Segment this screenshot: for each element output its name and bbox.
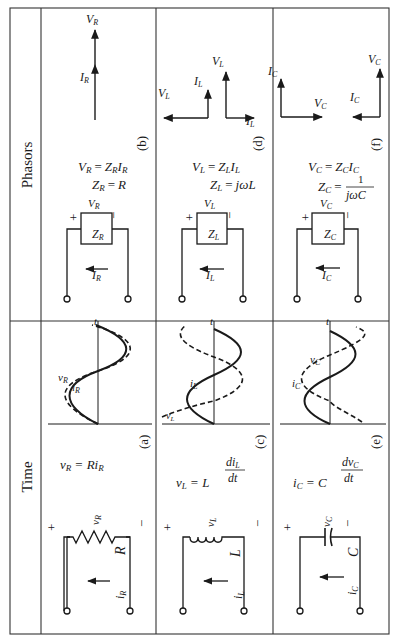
phasor-equation-2: ZL=jωL [210,177,256,193]
minus-sign: − [134,520,149,527]
terminal-node [127,608,133,614]
phasor-label-v2: VC [368,52,381,67]
phasor-label-i: IL [193,74,203,89]
phasor-equation-1: VR=ZRIR [78,159,128,175]
equation: vL=L [176,475,209,491]
svg-text:dt: dt [344,471,354,485]
phasor-label-v: VR [86,12,98,27]
phasor-equation-2: ZC= [318,179,342,195]
minus-sign: − [340,212,355,219]
equation: iC=C [293,475,327,491]
panel-label-e: (e) [368,435,383,449]
equation: vR=RiR [60,457,104,473]
svg-text:diL: diL [226,455,240,470]
voltage-label: VL [204,197,216,211]
panel-label-b: (b) [134,136,149,151]
phasor-equation-1: VC=ZCIC [308,159,360,175]
current-label: IC [321,268,332,283]
inductor-coil [190,537,236,542]
phasor-label-i2: IC [349,90,360,105]
phasor-label-i2: IL [245,114,255,129]
plus-sign: + [298,214,313,221]
waveform-plot-e [280,321,386,424]
phasor-label-v2: VL [212,54,224,69]
waveform-plot-a [48,321,152,424]
resistor-zigzag [67,531,130,543]
derivative-fraction: dvC dt [341,455,363,485]
current-label: IL [205,268,215,283]
current-label: iR [113,591,128,599]
phasor-label-i: IR [79,70,89,85]
minus-sign: − [250,520,265,527]
svg-text:1: 1 [358,173,364,185]
figure-rotated-canvas: Time Phasors + − vR R iR vR=RiR (a) vR i… [0,0,394,637]
phasor-label-v: VC [314,96,327,111]
plus-sign: + [182,214,197,221]
capacitor-circuit [297,528,363,614]
header-time: Time [19,461,35,492]
minus-sign: − [222,212,237,219]
wave-label-i: iC [292,377,301,391]
phasor-diagram-f [281,69,380,117]
current-label: iL [231,591,246,599]
phasor-diagram-d [164,72,254,118]
panel-label-c: (c) [252,435,267,449]
waveform-plot-c [162,321,270,424]
minus-sign: − [106,212,121,219]
resistor-circuit [64,531,133,614]
current-label: IR [91,268,101,283]
phasor-label-v: VL [158,86,170,101]
panel-label-a: (a) [136,435,151,449]
plus-sign: + [160,524,175,531]
voltage-label: VC [320,197,333,211]
wave-label-v: vR [58,371,68,385]
element-symbol: C [346,547,361,557]
impedance-label: ZR [92,227,104,242]
wave-label-v: vC [310,353,321,367]
impedance-label: ZL [208,227,220,242]
circuit-table-figure: Time Phasors + − vR R iR vR=RiR (a) vR i… [0,0,394,637]
voltage-label: VR [88,197,100,211]
plus-sign: + [280,524,295,531]
phasor-equation-2: ZR=R [92,177,126,193]
derivative-fraction: diL dt [225,455,245,485]
voltage-label: vC [320,516,334,527]
panel-label-f: (f) [368,138,383,151]
current-label: iC [345,586,360,595]
svg-text:dvC: dvC [342,455,359,470]
svg-text:jωC: jωC [344,188,367,202]
svg-text:dt: dt [228,471,238,485]
element-symbol: L [228,549,243,558]
wave-label-i: iL [190,377,198,391]
panel-label-d: (d) [250,136,265,151]
impedance-fraction: 1 jωC [344,173,374,202]
terminal-node [64,608,70,614]
element-symbol: R [113,546,128,556]
header-phasors: Phasors [19,142,35,189]
voltage-label: vL [204,517,218,527]
plus-sign: + [66,214,81,221]
phasor-equation-1: VL=ZLIL [192,159,240,175]
minus-sign: − [340,520,355,527]
plus-sign: + [44,524,59,531]
voltage-label: vR [89,515,103,525]
impedance-label: ZC [324,227,337,242]
